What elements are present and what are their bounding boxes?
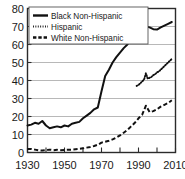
x-axis-labels-group: 19301950197019902010 bbox=[15, 159, 185, 171]
x-tick-label-1950: 1950 bbox=[52, 159, 76, 171]
y-tick-label-40: 40 bbox=[12, 75, 24, 87]
series-line-hispanic bbox=[137, 59, 172, 86]
legend-label-white-non-hispanic: White Non-Hispanic bbox=[51, 34, 123, 43]
y-tick-label-50: 50 bbox=[12, 57, 24, 69]
y-tick-label-20: 20 bbox=[12, 111, 24, 123]
x-tick-label-2010: 2010 bbox=[163, 159, 185, 171]
series-line-white-non-hispanic bbox=[28, 100, 172, 150]
x-tick-label-1970: 1970 bbox=[89, 159, 113, 171]
line-chart: 01020304050607080 19301950197019902010 B… bbox=[0, 0, 185, 179]
chart-canvas: 01020304050607080 19301950197019902010 B… bbox=[0, 0, 185, 179]
x-tick-label-1990: 1990 bbox=[126, 159, 150, 171]
y-tick-label-10: 10 bbox=[12, 129, 24, 141]
chart-legend: Black Non-HispanicHispanicWhite Non-Hisp… bbox=[29, 7, 148, 44]
x-tick-label-1930: 1930 bbox=[15, 159, 39, 171]
y-tick-label-60: 60 bbox=[12, 39, 24, 51]
y-tick-label-0: 0 bbox=[18, 147, 24, 159]
y-tick-label-80: 80 bbox=[12, 3, 24, 15]
legend-label-hispanic: Hispanic bbox=[51, 23, 82, 32]
y-axis-labels-group: 01020304050607080 bbox=[12, 3, 32, 159]
legend-label-black-non-hispanic: Black Non-Hispanic bbox=[51, 12, 122, 21]
y-tick-label-70: 70 bbox=[12, 21, 24, 33]
y-tick-label-30: 30 bbox=[12, 93, 24, 105]
